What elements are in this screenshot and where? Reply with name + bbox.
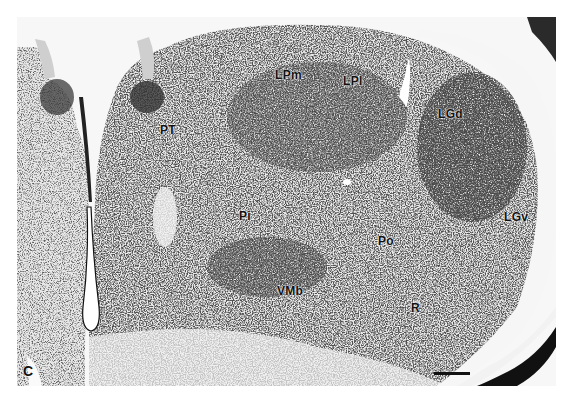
top-background	[17, 17, 556, 20]
right-habenula	[130, 81, 164, 113]
label-PT: PT	[160, 124, 176, 136]
label-Po: Po	[378, 235, 394, 247]
label-R: R	[411, 302, 420, 314]
pulvinar-dense-region	[227, 62, 407, 172]
label-VMb: VMb	[277, 285, 303, 297]
micrograph-figure: LPm LPl LGd PT Pi LGv Po VMb R C	[17, 17, 556, 386]
pt-pale-region	[153, 187, 177, 247]
lgd-dense-region	[417, 72, 527, 222]
label-LPl: LPl	[343, 75, 363, 87]
vmb-dense-region	[207, 237, 327, 297]
top-right-dark-tissue	[527, 17, 556, 62]
label-LGv: LGv	[504, 211, 528, 223]
scale-bar	[434, 372, 470, 375]
label-LPm: LPm	[275, 69, 302, 81]
left-habenula	[40, 79, 74, 115]
label-LGd: LGd	[438, 108, 463, 120]
panel-letter: C	[23, 364, 33, 378]
label-Pi: Pi	[239, 210, 251, 222]
vessel-small-1	[343, 179, 351, 185]
